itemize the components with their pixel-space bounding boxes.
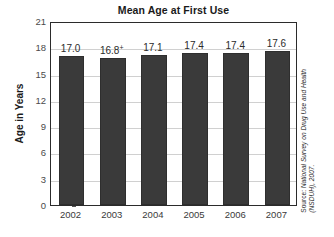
plot-area	[50, 22, 297, 206]
bar	[223, 53, 249, 205]
x-tick-label: 2004	[132, 209, 173, 221]
bar-series	[51, 23, 296, 205]
y-tick-label: 21	[26, 17, 46, 27]
x-tick-label: 2002	[50, 209, 91, 221]
source-line-2: (NSDUH), 2007.	[309, 28, 317, 213]
x-axis-tick-labels: 200220032004200520062007	[50, 209, 297, 225]
source-note: Source: National Survey on Drug Use and …	[300, 28, 316, 213]
y-tick-label: 15	[26, 70, 46, 80]
bar	[141, 55, 167, 205]
x-tick-label: 2005	[174, 209, 215, 221]
x-tick-label: 2007	[256, 209, 297, 221]
y-tick-label: 6	[26, 148, 46, 158]
bar	[265, 51, 291, 205]
x-tick-label: 2006	[215, 209, 256, 221]
y-tick-mark	[72, 206, 76, 207]
bar	[59, 56, 85, 205]
y-tick-label: 0	[26, 201, 46, 211]
y-tick-label: 3	[26, 175, 46, 185]
y-tick-label: 12	[26, 96, 46, 106]
source-label: Source:	[300, 188, 307, 213]
source-line-1: National Survey on Drug Use and Health	[300, 69, 307, 188]
chart-title: Mean Age at First Use	[50, 4, 297, 17]
y-axis-tick-labels: 036912151821	[26, 22, 46, 206]
bar	[182, 53, 208, 205]
y-tick-label: 18	[26, 43, 46, 53]
x-tick-label: 2003	[91, 209, 132, 221]
y-axis-title: Age in Years	[14, 54, 25, 174]
y-tick-label: 9	[26, 122, 46, 132]
bar-chart-figure: Mean Age at First Use Age in Years 03691…	[0, 0, 334, 237]
bar	[100, 58, 126, 205]
